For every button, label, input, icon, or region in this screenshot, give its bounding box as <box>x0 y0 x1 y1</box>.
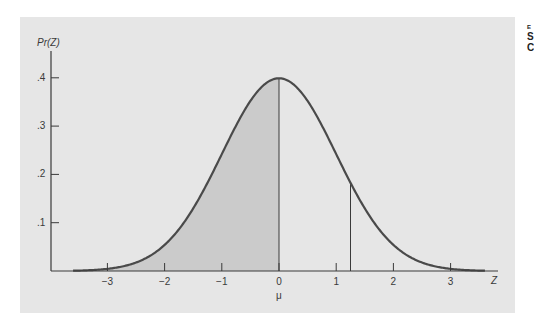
x-tick-label: 3 <box>445 277 457 287</box>
y-tick-label: .1 <box>37 218 45 228</box>
x-tick-label: −1 <box>216 277 228 287</box>
chart-panel: −3−2−10123μ.1.2.3.4Pr(Z)Z <box>20 17 515 313</box>
y-tick-label: .3 <box>37 121 45 131</box>
y-axis-label: Pr(Z) <box>37 38 60 48</box>
x-tick-label: 0 <box>273 277 285 287</box>
x-tick-label: 2 <box>387 277 399 287</box>
shaded-area <box>107 78 279 271</box>
y-tick-label: .4 <box>37 73 45 83</box>
x-axis-label: Z <box>491 276 497 286</box>
x-tick-label: 1 <box>330 277 342 287</box>
x-tick-label: −2 <box>159 277 171 287</box>
normal-distribution-plot <box>20 17 515 313</box>
caption-fragment-3: C <box>527 43 534 53</box>
y-tick-label: .2 <box>37 169 45 179</box>
caption-fragment-2: S <box>527 32 534 42</box>
mu-label: μ <box>273 291 285 301</box>
x-tick-label: −3 <box>101 277 113 287</box>
caption-fragment-1: E <box>527 24 531 30</box>
